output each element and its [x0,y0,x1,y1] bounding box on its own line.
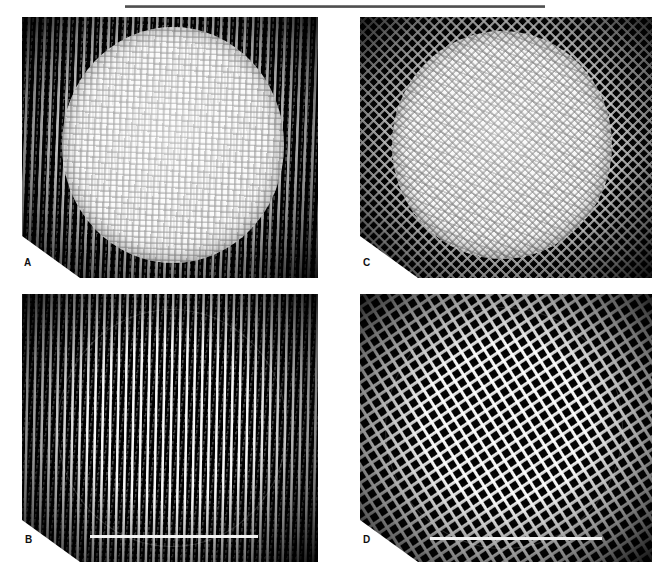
panel-d-image [360,294,652,562]
micrograph-panel-a[interactable] [22,17,318,278]
panel-c-specimen-disc [392,31,612,259]
panel-d-label: D [363,534,371,545]
panel-c-label: C [363,257,371,268]
panel-b-scale-bar [90,535,258,538]
panel-c-disc-glow [392,31,612,259]
top-horizontal-rule [125,5,545,8]
figure-root: A C B D [0,0,668,573]
micrograph-panel-c[interactable] [360,17,652,278]
panel-b-label: B [25,534,33,545]
panel-d-specimen-outline [386,308,622,548]
panel-a-label: A [24,257,32,268]
panel-b-specimen-outline [58,310,286,546]
micrograph-panel-d[interactable] [360,294,652,562]
micrograph-panel-b[interactable] [22,294,318,562]
panel-b-image [22,294,318,562]
panel-a-disc-shading [62,27,284,263]
panel-c-disc-shading [392,31,612,259]
panel-a-image [22,17,318,278]
panel-d-scale-bar [430,537,602,540]
panel-a-specimen-disc [62,27,284,263]
panel-a-disc-glow [62,27,284,263]
panel-c-image [360,17,652,278]
